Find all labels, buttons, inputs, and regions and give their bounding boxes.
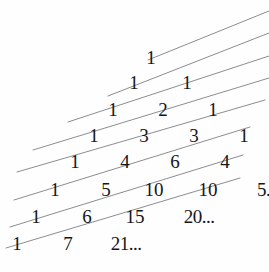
triangle-cell: 1	[46, 180, 64, 199]
triangle-row: 14641	[66, 152, 269, 171]
triangle-cell: 1	[235, 126, 253, 145]
triangle-row: 11	[125, 73, 196, 92]
triangle-cell: 5.. .	[249, 180, 269, 199]
triangle-cell: 3	[135, 126, 153, 145]
triangle-cell: 1	[125, 73, 143, 92]
triangle-row: 1331	[85, 126, 253, 145]
triangle-cell: 1	[104, 100, 122, 119]
triangle-rows-layer: 1111211331146411510105.. .161520...1721.…	[0, 0, 269, 272]
triangle-row: 1721...	[8, 234, 149, 253]
pascal-triangle-figure: 1111211331146411510105.. .161520...1721.…	[0, 0, 269, 272]
triangle-cell: 1	[142, 48, 160, 67]
triangle-cell: 7	[59, 234, 77, 253]
triangle-cell: 1	[66, 152, 84, 171]
triangle-cell: 4	[216, 152, 234, 171]
triangle-cell: 15	[122, 207, 148, 226]
triangle-row: 161520...	[27, 207, 222, 226]
triangle-row: 1510105.. .	[46, 180, 269, 199]
triangle-cell: 3	[185, 126, 203, 145]
triangle-cell: 10	[195, 180, 221, 199]
triangle-cell: 1	[204, 100, 222, 119]
triangle-cell: 1	[85, 126, 103, 145]
triangle-cell: 1	[27, 207, 45, 226]
triangle-row: 121	[104, 100, 222, 119]
triangle-cell: 6	[78, 207, 96, 226]
triangle-row: 1	[142, 48, 160, 67]
triangle-cell: 1	[178, 73, 196, 92]
triangle-cell: 1	[266, 152, 269, 171]
triangle-cell: 6	[166, 152, 184, 171]
triangle-cell: 4	[116, 152, 134, 171]
triangle-cell: 2	[154, 100, 172, 119]
triangle-cell: 10	[141, 180, 167, 199]
triangle-cell: 5	[97, 180, 115, 199]
triangle-cell: 20...	[176, 207, 222, 226]
triangle-cell: 1	[8, 234, 26, 253]
triangle-cell: 21...	[103, 234, 149, 253]
